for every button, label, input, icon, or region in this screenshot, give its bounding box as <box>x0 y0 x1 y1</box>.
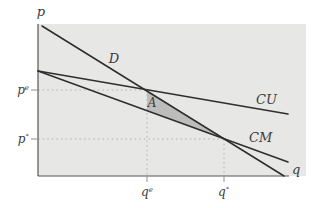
pe-price-label-superscript: e <box>25 84 29 92</box>
welfare-loss-area-label-base: A <box>147 96 157 110</box>
po-price-label-superscript: ° <box>26 133 30 141</box>
qe-quantity-label-superscript: e <box>149 186 153 194</box>
qo-quantity-label-superscript: ° <box>226 186 230 194</box>
x-axis-letter: q <box>292 162 300 177</box>
y-axis-letter-base: p <box>37 4 46 19</box>
po-price-label: p° <box>18 132 29 146</box>
x-axis-letter-base: q <box>292 162 300 177</box>
textbook-figure: pqDCUCMApep°qeq° <box>0 0 314 208</box>
demand-curve-label: D <box>108 51 120 66</box>
pe-price-label: pe <box>17 83 29 97</box>
welfare-loss-area-label: A <box>147 96 157 110</box>
marginal-cost-curve-label: CM <box>249 130 273 145</box>
economics-diagram-canvas: pqDCUCMApep°qeq° <box>0 0 314 208</box>
qo-quantity-label: q° <box>218 185 229 199</box>
y-axis-letter: p <box>37 4 46 19</box>
qe-quantity-label: qe <box>141 185 153 199</box>
average-cost-curve-label: CU <box>256 92 278 107</box>
demand-curve-label-base: D <box>108 51 120 66</box>
average-cost-curve-label-base: CU <box>256 92 278 107</box>
marginal-cost-curve-label-base: CM <box>249 130 273 145</box>
